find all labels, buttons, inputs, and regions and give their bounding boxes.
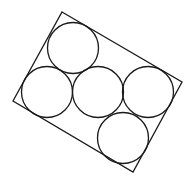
circle-right	[123, 67, 174, 118]
diagram-canvas	[0, 0, 192, 184]
circle-bottom	[98, 113, 149, 164]
tilted-rectangle	[13, 12, 182, 172]
circle-top	[48, 23, 99, 74]
circle-middle	[73, 67, 124, 118]
circle-left	[22, 67, 73, 118]
